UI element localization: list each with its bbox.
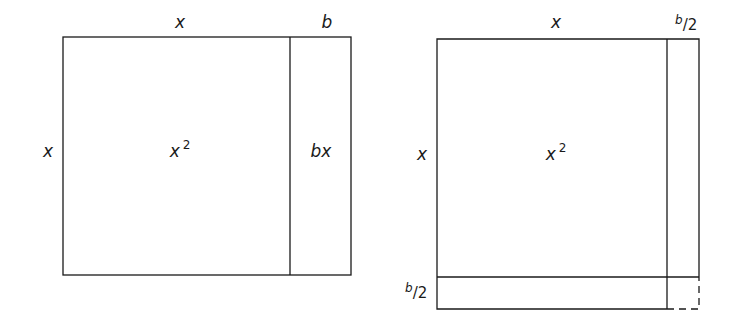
right-x-squared-label: x2 bbox=[545, 141, 567, 164]
right-top-half-b-label: b/2 bbox=[675, 13, 697, 34]
right-dashed-corner bbox=[667, 277, 699, 309]
right-figure bbox=[437, 39, 699, 309]
right-bottom-half-b-label: b/2 bbox=[405, 281, 427, 302]
right-side-x-label: x bbox=[416, 144, 428, 164]
left-x-squared-label: x2 bbox=[169, 138, 191, 161]
left-figure bbox=[63, 37, 351, 275]
left-bx-label: bx bbox=[311, 141, 333, 161]
left-outer-rect bbox=[63, 37, 351, 275]
left-side-x-label: x bbox=[42, 141, 54, 161]
diagram-canvas: x b x x2 bx x b/2 x x2 b/2 bbox=[0, 0, 732, 327]
left-top-b-label: b bbox=[322, 12, 333, 32]
left-top-x-label: x bbox=[174, 12, 186, 32]
right-outer-solid bbox=[437, 39, 699, 309]
right-top-x-label: x bbox=[550, 12, 562, 32]
